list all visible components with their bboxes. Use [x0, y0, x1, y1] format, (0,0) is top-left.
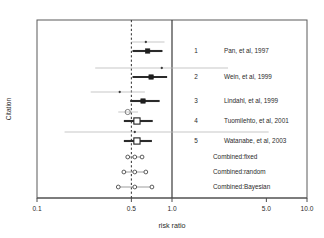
x-axis-label: risk ratio: [158, 221, 185, 230]
study-citation-5: Watanabe, et al, 2003: [224, 137, 287, 144]
combined-label-1: Combined:random: [213, 168, 266, 175]
shrunken-point-marker: [145, 49, 149, 53]
combined-estimate-0: [126, 155, 144, 159]
forest-plot-figure: 0.10.51.05.010.0 1Pan, et al, 19972Wein,…: [0, 0, 324, 238]
study-citation-3: Lindahl, et al, 1999: [224, 97, 278, 104]
study-number-4: 4: [194, 117, 198, 124]
x-tick-label-1.0: 1.0: [167, 205, 176, 212]
study-number-1: 1: [194, 47, 198, 54]
observed-point-marker: [134, 131, 136, 133]
combined-point-marker: [133, 185, 137, 189]
combined-label-0: Combined:fixed: [213, 153, 258, 160]
combined-ci-endpoint: [126, 155, 130, 159]
study-number-3: 3: [194, 97, 198, 104]
study-citation-1: Pan, et al, 1997: [224, 47, 269, 54]
combined-point-marker: [133, 155, 137, 159]
shrunken-point-marker: [149, 75, 153, 79]
observed-point-marker: [145, 41, 147, 43]
study-citation-4: Tuomilehto, et al, 2001: [224, 117, 289, 124]
combined-label-2: Combined:Bayesian: [213, 183, 271, 191]
x-tick-label-0.1: 0.1: [32, 205, 41, 212]
y-axis-label: Citation: [5, 97, 12, 120]
combined-ci-endpoint: [116, 185, 120, 189]
combined-ci-endpoint: [122, 170, 126, 174]
x-tick-label-0.5: 0.5: [127, 205, 136, 212]
combined-ci-endpoint: [144, 170, 148, 174]
study-citation-2: Wein, et al, 1999: [224, 73, 272, 80]
shrunken-point-marker: [134, 118, 140, 124]
combined-ci-endpoint: [150, 185, 154, 189]
combined-ci-endpoint: [140, 155, 144, 159]
x-tick-label-5.0: 5.0: [262, 205, 271, 212]
observed-point-marker: [119, 91, 121, 93]
shrunken-point-marker: [134, 138, 140, 144]
study-number-2: 2: [194, 73, 198, 80]
observed-point-marker: [161, 67, 163, 69]
forest-plot-canvas: 0.10.51.05.010.0 1Pan, et al, 19972Wein,…: [0, 0, 324, 238]
x-tick-label-10.0: 10.0: [301, 205, 314, 212]
study-number-5: 5: [194, 137, 198, 144]
combined-point-marker: [133, 170, 137, 174]
shrunken-point-marker: [141, 99, 145, 103]
